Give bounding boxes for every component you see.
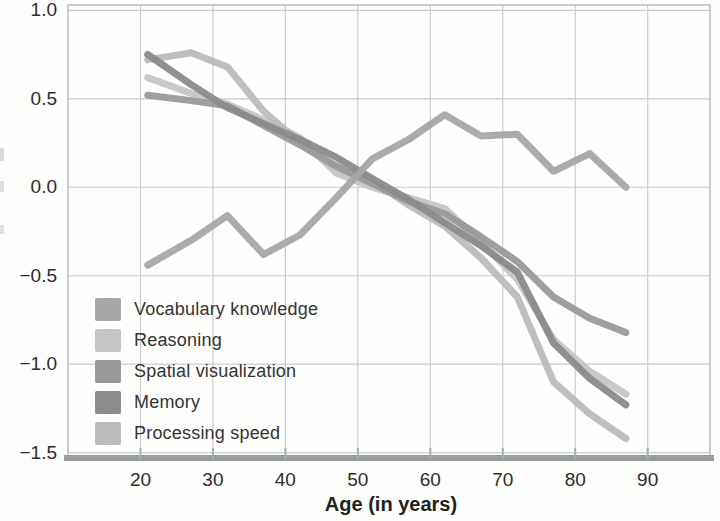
y-tick-label: −1.0 [19,353,57,374]
x-tick-label: 80 [565,469,586,490]
x-tick-label: 50 [347,469,368,490]
chart-legend: Vocabulary knowledge Reasoning Spatial v… [95,297,318,445]
legend-item-spatial: Spatial visualization [95,359,318,383]
x-tick-label: 90 [637,469,658,490]
processing-speed-swatch-icon [95,422,121,445]
spatial-swatch-icon [95,360,121,383]
x-axis-title: Age (in years) [325,493,457,515]
y-tick-label: 1.0 [31,0,57,20]
cognitive-aging-line-chart: 1.00.50.0−0.5−1.0−1.52030405060708090Age… [0,0,720,521]
legend-label: Vocabulary knowledge [134,299,318,320]
legend-label: Memory [134,392,200,413]
x-tick-label: 60 [420,469,441,490]
y-axis-label-fragment [0,148,4,258]
y-tick-label: −0.5 [19,265,57,286]
legend-item-memory: Memory [95,390,318,414]
legend-item-processing-speed: Processing speed [95,421,318,445]
legend-label: Processing speed [134,423,280,444]
y-tick-label: −1.5 [19,442,57,463]
legend-item-vocabulary: Vocabulary knowledge [95,297,318,321]
x-tick-label: 30 [202,469,223,490]
y-tick-label: 0.0 [31,176,57,197]
legend-item-reasoning: Reasoning [95,328,318,352]
x-tick-label: 70 [492,469,513,490]
y-tick-label: 0.5 [31,88,57,109]
legend-label: Reasoning [134,330,222,351]
x-tick-label: 40 [275,469,296,490]
x-tick-label: 20 [130,469,151,490]
memory-swatch-icon [95,391,121,414]
legend-label: Spatial visualization [134,361,296,382]
reasoning-swatch-icon [95,329,121,352]
vocabulary-swatch-icon [95,298,121,321]
